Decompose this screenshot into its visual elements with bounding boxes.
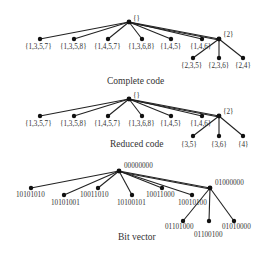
node-label: {3,5} (181, 141, 197, 149)
tree-node (106, 114, 110, 118)
node-label: 01101000 (165, 223, 194, 231)
tree-node (208, 186, 213, 191)
tree-node (217, 134, 221, 138)
tree-node (130, 193, 134, 197)
caption: Bit vector (118, 232, 157, 242)
tree-node (190, 193, 194, 197)
tree-node (169, 114, 173, 118)
tree-node (106, 37, 110, 41)
complete-code-tree: {} {1,3,5,7} {1,3,5,8} {1,4,5,7} {1,3,6,… (25, 15, 251, 86)
tree-node (191, 56, 195, 60)
tree-node (217, 37, 222, 42)
root-node (127, 20, 132, 25)
root-label: {} (133, 15, 140, 23)
node-label: 10101001 (51, 199, 80, 207)
node-label: {2} (223, 108, 234, 116)
node-label: 01100100 (194, 231, 223, 239)
tree-node (191, 134, 195, 138)
tree-node (200, 37, 204, 41)
node-label: {1,3,5,7} (25, 120, 52, 128)
tree-node (217, 56, 221, 60)
tree-node (140, 37, 144, 41)
node-label: {1,4,6} (190, 43, 211, 51)
tree-node (29, 186, 33, 190)
node-label: {1,3,5,8} (60, 120, 87, 128)
node-label: {1,4,5} (160, 43, 181, 51)
root-label: 00000000 (124, 162, 153, 170)
tree-node (169, 37, 173, 41)
tree-node (200, 114, 204, 118)
node-label: 10011000 (146, 191, 175, 199)
bit-vector-tree: 00000000 10101010 10101001 10011010 1010… (16, 162, 251, 242)
node-label: {1,3,5,7} (25, 43, 52, 51)
caption: Complete code (107, 76, 164, 86)
node-label: 01000000 (215, 179, 244, 187)
reduced-code-tree: {} {1,3,5,7} {1,3,5,8} {1,4,5,7} {1,3,6,… (25, 92, 249, 149)
tree-node (207, 219, 211, 223)
tree-node (72, 37, 76, 41)
tree-node (72, 114, 76, 118)
node-label: {1,4,5,7} (94, 43, 121, 51)
tree-node (38, 37, 42, 41)
root-node (127, 97, 132, 102)
node-label: {1,4,6} (190, 120, 211, 128)
node-label: {1,4,5,7} (94, 120, 121, 128)
node-label: 10100101 (117, 199, 146, 207)
tree-node (38, 114, 42, 118)
tree-node (160, 186, 164, 190)
node-label: 10101010 (16, 191, 45, 199)
code-tree-diagrams: {} {1,3,5,7} {1,3,5,8} {1,4,5,7} {1,3,6,… (0, 0, 267, 254)
tree-node (241, 134, 245, 138)
node-label: {1,4,5} (160, 120, 181, 128)
node-label: {2,4} (235, 62, 251, 70)
tree-node (241, 56, 245, 60)
node-label: {1,3,5,8} (60, 43, 87, 51)
node-label: 10010100 (178, 199, 207, 207)
root-label: {} (133, 92, 140, 100)
node-label: {2,3,5} (181, 62, 202, 70)
root-node (117, 169, 122, 174)
tree-node (217, 114, 222, 119)
node-label: {2,3,6} (208, 62, 229, 70)
node-label: 10011010 (80, 191, 109, 199)
node-label: 01010000 (222, 223, 251, 231)
tree-node (140, 114, 144, 118)
node-label: {4} (238, 141, 249, 149)
tree-node (62, 193, 66, 197)
caption: Reduced code (110, 139, 164, 149)
node-label: {1,3,6,8} (128, 120, 155, 128)
node-label: {1,3,6,8} (128, 43, 155, 51)
tree-node (96, 186, 100, 190)
node-label: {2} (223, 31, 234, 39)
node-label: {3,6} (211, 141, 227, 149)
